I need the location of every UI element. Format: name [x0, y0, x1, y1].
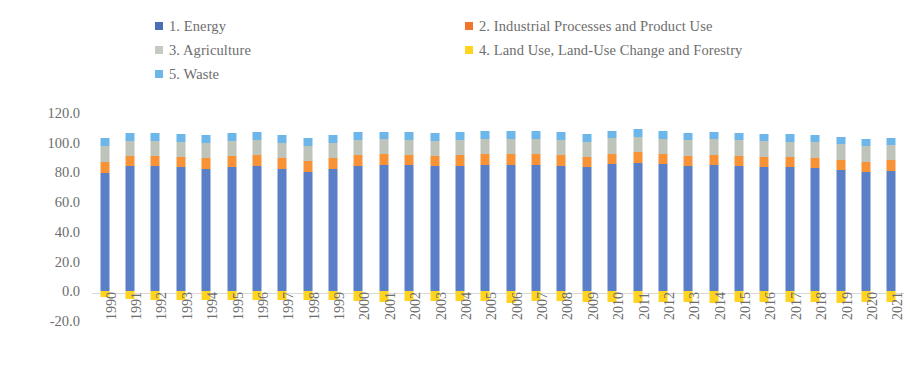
legend-swatch-energy	[155, 22, 163, 30]
bar-stack-positive	[303, 138, 312, 292]
bar-column[interactable]	[879, 113, 904, 321]
bar-segment	[836, 170, 845, 291]
bar-segment	[252, 140, 261, 155]
x-axis: 1990199119921993199419951996199719981999…	[92, 300, 904, 385]
bar-segment	[354, 132, 363, 140]
bar-stack-positive	[405, 132, 414, 291]
bar-column[interactable]	[92, 113, 117, 321]
bar-segment	[811, 142, 820, 157]
bar-segment	[430, 141, 439, 156]
bar-column[interactable]	[143, 113, 168, 321]
legend-item-land-use[interactable]: 4. Land Use, Land-Use Change and Forestr…	[465, 38, 835, 62]
legend-label-agriculture: 3. Agriculture	[169, 42, 251, 59]
bar-segment	[506, 165, 515, 291]
bar-stack-positive	[582, 134, 591, 291]
bar-segment	[861, 139, 870, 146]
bar-column[interactable]	[295, 113, 320, 321]
bar-column[interactable]	[219, 113, 244, 321]
legend-item-energy[interactable]: 1. Energy	[155, 14, 465, 38]
bar-column[interactable]	[853, 113, 878, 321]
bar-column[interactable]	[625, 113, 650, 321]
bar-segment	[151, 133, 160, 141]
bar-stack-positive	[836, 137, 845, 291]
bar-segment	[354, 140, 363, 155]
x-axis-tick-column: 2021	[879, 300, 904, 385]
bar-segment	[252, 155, 261, 166]
y-axis-tick: 100.0	[47, 135, 80, 150]
bar-column[interactable]	[803, 113, 828, 321]
x-axis-tick-column: 1990	[92, 300, 117, 385]
bar-column[interactable]	[777, 113, 802, 321]
bar-segment	[633, 163, 642, 291]
bar-stack-positive	[633, 129, 642, 291]
y-axis-tick: 60.0	[55, 195, 80, 210]
bar-column[interactable]	[244, 113, 269, 321]
bar-segment	[379, 139, 388, 154]
bar-stack-positive	[709, 132, 718, 292]
bar-column[interactable]	[194, 113, 219, 321]
bar-stack-positive	[481, 131, 490, 291]
bar-column[interactable]	[371, 113, 396, 321]
x-axis-tick-column: 2016	[752, 300, 777, 385]
bar-column[interactable]	[117, 113, 142, 321]
bar-segment	[557, 155, 566, 166]
bar-segment	[455, 155, 464, 166]
bar-column[interactable]	[168, 113, 193, 321]
bar-column[interactable]	[726, 113, 751, 321]
bar-stack-positive	[227, 133, 236, 291]
x-axis-tick-column: 1991	[117, 300, 142, 385]
bar-column[interactable]	[752, 113, 777, 321]
x-axis-tick-column: 2017	[777, 300, 802, 385]
x-axis-tick-column: 2006	[498, 300, 523, 385]
bar-column[interactable]	[270, 113, 295, 321]
bar-column[interactable]	[498, 113, 523, 321]
bar-column[interactable]	[676, 113, 701, 321]
bar-column[interactable]	[447, 113, 472, 321]
legend-row-3: 5. Waste	[155, 62, 835, 86]
chart-legend: 1. Energy 2. Industrial Processes and Pr…	[155, 14, 835, 86]
bar-column[interactable]	[574, 113, 599, 321]
legend-swatch-land-use	[465, 46, 473, 54]
bar-stack-positive	[252, 132, 261, 291]
bar-segment	[887, 171, 896, 292]
x-axis-tick-column: 2007	[523, 300, 548, 385]
y-axis-tick: 0.0	[62, 284, 80, 299]
bar-segment	[202, 135, 211, 143]
bar-column[interactable]	[701, 113, 726, 321]
bar-segment	[126, 166, 135, 291]
bar-column[interactable]	[473, 113, 498, 321]
bar-segment	[481, 139, 490, 154]
legend-row-2: 3. Agriculture 4. Land Use, Land-Use Cha…	[155, 38, 835, 62]
x-axis-tick-column: 2000	[346, 300, 371, 385]
bar-column[interactable]	[523, 113, 548, 321]
legend-item-industrial-processes[interactable]: 2. Industrial Processes and Product Use	[465, 14, 835, 38]
bar-segment	[582, 157, 591, 167]
bar-column[interactable]	[346, 113, 371, 321]
bar-segment	[455, 166, 464, 291]
x-axis-tick-column: 1996	[244, 300, 269, 385]
bar-segment	[735, 133, 744, 140]
bar-segment	[379, 132, 388, 140]
x-axis-tick-column: 2010	[600, 300, 625, 385]
bar-column[interactable]	[549, 113, 574, 321]
legend-item-agriculture[interactable]: 3. Agriculture	[155, 38, 465, 62]
x-axis-tick-column: 2013	[676, 300, 701, 385]
bar-column[interactable]	[650, 113, 675, 321]
bar-column[interactable]	[422, 113, 447, 321]
bar-column[interactable]	[600, 113, 625, 321]
bar-stack-positive	[126, 133, 135, 292]
bar-column[interactable]	[397, 113, 422, 321]
bar-stack-positive	[379, 132, 388, 292]
bar-segment	[252, 166, 261, 291]
bar-segment	[532, 165, 541, 291]
bar-segment	[278, 169, 287, 292]
bar-column[interactable]	[828, 113, 853, 321]
legend-swatch-agriculture	[155, 46, 163, 54]
x-axis-tick-column: 2012	[650, 300, 675, 385]
bar-segment	[100, 173, 109, 292]
bar-segment	[506, 154, 515, 165]
bar-stack-positive	[151, 133, 160, 292]
legend-item-waste[interactable]: 5. Waste	[155, 62, 465, 86]
y-axis-tick: 120.0	[47, 106, 80, 121]
bar-column[interactable]	[320, 113, 345, 321]
